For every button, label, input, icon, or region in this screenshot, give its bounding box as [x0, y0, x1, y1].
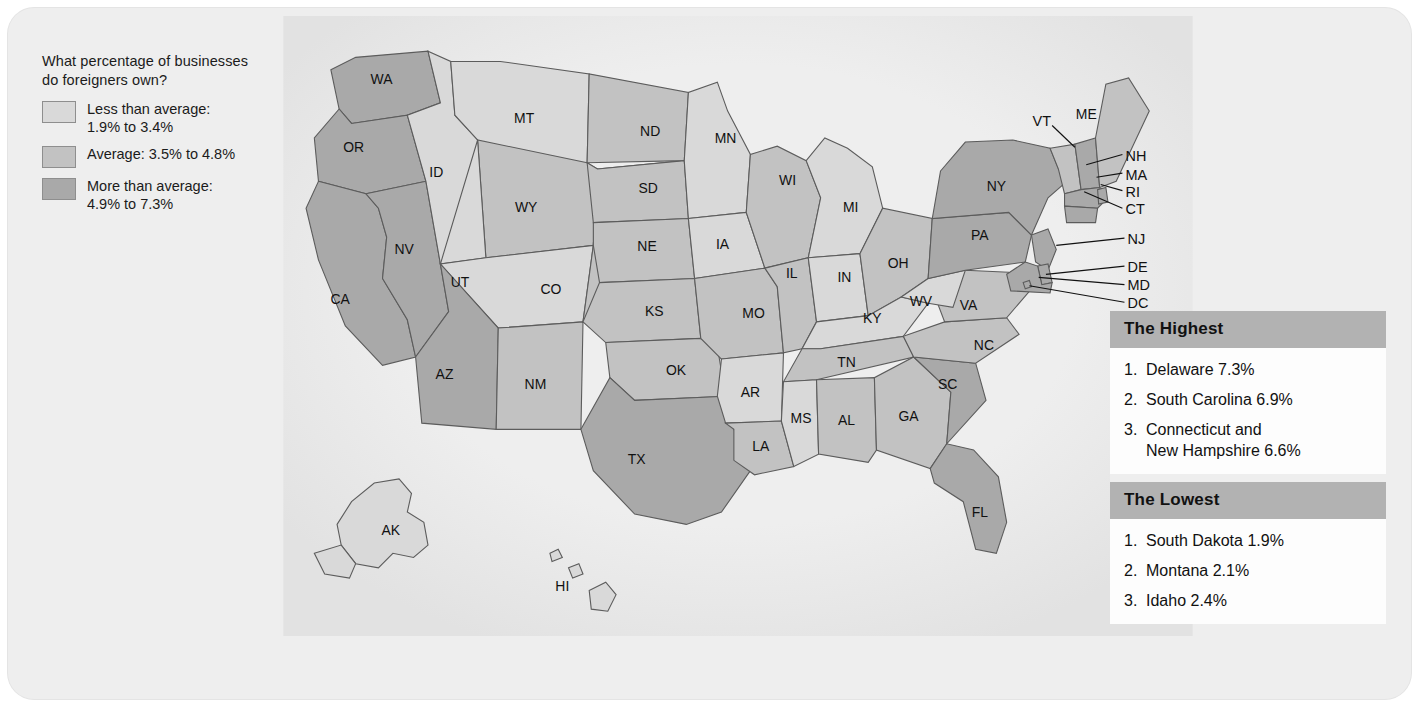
state-label-mt: MT [514, 110, 535, 126]
state-label-ok: OK [666, 362, 687, 378]
rank: 1. [1124, 359, 1146, 380]
state-label-ks: KS [645, 303, 664, 319]
card-highest: The Highest 1. Delaware 7.3% 2. South Ca… [1110, 311, 1386, 474]
state-label-sc: SC [938, 376, 957, 392]
entry: South Carolina 6.9% [1146, 389, 1293, 410]
state-label-ne: NE [637, 238, 656, 254]
entry: Idaho 2.4% [1146, 590, 1227, 611]
state-label-wi: WI [779, 172, 796, 188]
rank: 3. [1124, 419, 1146, 461]
choropleth-map: WAORCANVIDMTWYUTCOAZNMNDSDNEKSOKTXMNIAMO… [258, 16, 1218, 636]
state-label-la: LA [752, 438, 770, 454]
ranking-cards: The Highest 1. Delaware 7.3% 2. South Ca… [1110, 311, 1386, 624]
state-label-hi: HI [555, 578, 569, 594]
rank: 1. [1124, 530, 1146, 551]
legend-label-low: Less than average: 1.9% to 3.4% [87, 100, 210, 136]
state-label-nm: NM [525, 376, 547, 392]
state-label-mo: MO [742, 305, 765, 321]
state-label-nh: NH [1126, 148, 1147, 164]
state-label-wy: WY [515, 199, 537, 215]
state-label-de: DE [1128, 259, 1148, 275]
infographic-page: What percentage of businesses do foreign… [8, 8, 1411, 699]
state-label-tn: TN [837, 354, 856, 370]
entry: Connecticut and New Hampshire 6.6% [1146, 419, 1301, 461]
state-label-dc: DC [1128, 295, 1149, 311]
state-label-ia: IA [716, 236, 730, 252]
state-label-ca: CA [330, 291, 350, 307]
state-label-ga: GA [898, 408, 919, 424]
state-label-in: IN [837, 269, 851, 285]
state-label-nc: NC [974, 337, 994, 353]
state-label-sd: SD [638, 180, 657, 196]
state-label-wv: WV [910, 293, 933, 309]
state-label-ct: CT [1126, 201, 1145, 217]
state-label-ar: AR [741, 384, 760, 400]
rank: 2. [1124, 389, 1146, 410]
state-label-co: CO [541, 281, 562, 297]
legend-swatch-low [42, 101, 76, 123]
list-item: 1. South Dakota 1.9% [1124, 530, 1372, 551]
state-label-fl: FL [972, 504, 989, 520]
state-label-ma: MA [1126, 167, 1148, 183]
legend-question: What percentage of businesses do foreign… [42, 52, 292, 90]
legend-label-high: More than average: 4.9% to 7.3% [87, 177, 213, 213]
legend-item-high: More than average: 4.9% to 7.3% [42, 177, 292, 213]
state-label-pa: PA [971, 227, 989, 243]
map-legend: What percentage of businesses do foreign… [42, 52, 292, 222]
entry: Montana 2.1% [1146, 560, 1249, 581]
legend-swatch-mid [42, 146, 76, 168]
card-lowest-body: 1. South Dakota 1.9% 2. Montana 2.1% 3. … [1110, 519, 1386, 624]
state-label-me: ME [1076, 106, 1097, 122]
state-label-or: OR [343, 139, 364, 155]
state-label-nd: ND [640, 123, 660, 139]
state-label-tx: TX [628, 451, 646, 467]
state-label-wa: WA [371, 71, 394, 87]
state-label-nj: NJ [1128, 231, 1146, 247]
state-label-mn: MN [715, 130, 737, 146]
rank: 2. [1124, 560, 1146, 581]
list-item: 3. Connecticut and New Hampshire 6.6% [1124, 419, 1372, 461]
card-lowest-title: The Lowest [1110, 482, 1386, 519]
list-item: 1. Delaware 7.3% [1124, 359, 1372, 380]
state-label-id: ID [429, 164, 443, 180]
legend-item-mid: Average: 3.5% to 4.8% [42, 145, 292, 168]
list-item: 2. Montana 2.1% [1124, 560, 1372, 581]
state-label-vt: VT [1033, 113, 1052, 129]
state-label-az: AZ [436, 366, 454, 382]
state-label-ny: NY [987, 178, 1006, 194]
rank: 3. [1124, 590, 1146, 611]
state-label-il: IL [786, 265, 798, 281]
state-label-ut: UT [451, 274, 470, 290]
entry: Delaware 7.3% [1146, 359, 1255, 380]
state-label-ky: KY [863, 310, 882, 326]
state-label-ak: AK [382, 522, 401, 538]
list-item: 3. Idaho 2.4% [1124, 590, 1372, 611]
legend-label-mid: Average: 3.5% to 4.8% [87, 145, 235, 163]
list-item: 2. South Carolina 6.9% [1124, 389, 1372, 410]
card-highest-body: 1. Delaware 7.3% 2. South Carolina 6.9% … [1110, 348, 1386, 474]
state-label-oh: OH [888, 255, 909, 271]
card-divider [1110, 474, 1386, 482]
state-label-md: MD [1128, 277, 1150, 293]
state-label-al: AL [838, 412, 855, 428]
state-label-va: VA [960, 297, 978, 313]
legend-item-low: Less than average: 1.9% to 3.4% [42, 100, 292, 136]
state-label-ms: MS [791, 410, 812, 426]
card-lowest: The Lowest 1. South Dakota 1.9% 2. Monta… [1110, 482, 1386, 624]
card-highest-title: The Highest [1110, 311, 1386, 348]
state-label-nv: NV [395, 241, 415, 257]
legend-swatch-high [42, 178, 76, 200]
state-label-ri: RI [1126, 184, 1140, 200]
state-label-mi: MI [843, 199, 858, 215]
entry: South Dakota 1.9% [1146, 530, 1284, 551]
